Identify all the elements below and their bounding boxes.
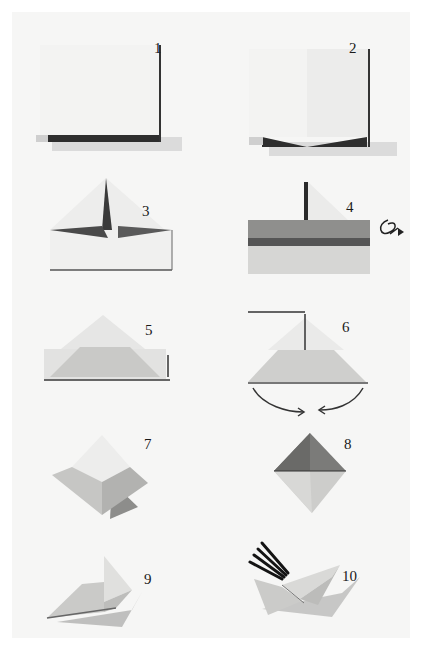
- step-4: 4: [248, 172, 413, 282]
- step-3-illustration: [30, 170, 180, 280]
- step-8-illustration: [262, 427, 392, 527]
- step-9-illustration: [32, 552, 172, 632]
- step-10-illustration: [242, 537, 402, 637]
- step-number: 1: [154, 41, 162, 56]
- step-number: 5: [145, 323, 153, 338]
- step-number: 3: [142, 204, 150, 219]
- step-7-illustration: [42, 427, 172, 527]
- step-number: 4: [346, 200, 354, 215]
- step-1-illustration: [32, 37, 182, 167]
- step-8: 8: [262, 427, 392, 527]
- step-9: 9: [32, 552, 172, 632]
- step-6: 6: [248, 312, 398, 422]
- step-5-illustration: [30, 307, 180, 387]
- curved-arrows-icon: [248, 312, 398, 422]
- step-number: 10: [342, 569, 357, 584]
- step-number: 6: [342, 320, 350, 335]
- step-number: 7: [144, 437, 152, 452]
- step-10: 10: [242, 537, 402, 637]
- step-number: 2: [349, 41, 357, 56]
- instruction-page: 1 2 3: [12, 12, 410, 638]
- pencils-icon: [250, 543, 288, 579]
- step-3: 3: [30, 170, 180, 280]
- step-number: 8: [344, 437, 352, 452]
- step-2-illustration: [247, 37, 397, 167]
- step-7: 7: [42, 427, 172, 527]
- step-number: 9: [144, 572, 152, 587]
- step-1: 1: [32, 37, 182, 167]
- turn-over-icon: [248, 172, 413, 282]
- step-2: 2: [247, 37, 397, 167]
- step-5: 5: [30, 307, 180, 387]
